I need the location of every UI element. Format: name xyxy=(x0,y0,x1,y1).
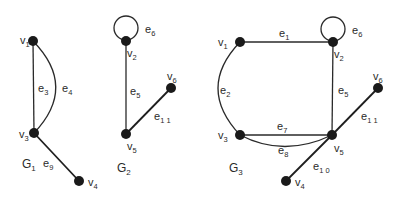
graph-1-edge-e3-label: e3 xyxy=(38,82,48,97)
graph-3-edge-e11-label: e1 1 xyxy=(361,110,378,125)
graph-3-edge-e5-label: e5 xyxy=(338,84,348,99)
graph-3-vertex-v2-label: v2 xyxy=(334,48,344,63)
graph-3-vertex-v1-label: v1 xyxy=(218,36,228,51)
graph-3-edge-e2-label: e2 xyxy=(220,84,230,99)
graph-1-vertex-v3 xyxy=(29,128,39,138)
graph-2-edge-e11-label: e1 1 xyxy=(154,110,171,125)
graph-1-vertex-v4-label: v4 xyxy=(88,176,98,191)
graph-1-vertex-v1-label: v1 xyxy=(20,34,30,49)
nodes-layer xyxy=(28,36,383,186)
graph-3-edge-e7-label: e7 xyxy=(277,120,287,135)
graph-2-vertex-v6-label: v6 xyxy=(167,70,177,85)
graph-1-edge-e9-label: e9 xyxy=(43,157,53,172)
graph-3-vertex-v6-label: v6 xyxy=(373,70,383,85)
graph-3-vertex-v2 xyxy=(328,37,338,47)
graph-2-edge-e6-label: e6 xyxy=(145,23,155,38)
graph-3-edge-e6-label: e6 xyxy=(352,24,362,39)
graph-1-vertex-v4 xyxy=(74,176,84,186)
graph-3-vertex-v1 xyxy=(235,37,245,47)
graph-2-vertex-v2-label: v2 xyxy=(127,47,137,62)
graph-2-vertex-v2 xyxy=(121,36,131,46)
graph-1-title: G1 xyxy=(22,157,36,173)
labels-layer: e3e4e9v1v3v4G1e6e5e1 1v2v6v5G2e1e6e2e5e7… xyxy=(19,23,383,191)
graph-2-edge-e5-label: e5 xyxy=(130,85,140,100)
graph-3-vertex-v5-label: v5 xyxy=(334,142,344,157)
graph-3-edge-e5 xyxy=(332,42,333,135)
graph-1-vertex-v3-label: v3 xyxy=(19,128,29,143)
graph-2-vertex-v5-label: v5 xyxy=(127,140,137,155)
graph-3-vertex-v3-label: v3 xyxy=(218,129,228,144)
graph-3-vertex-v4-label: v4 xyxy=(295,176,305,191)
graph-3-title: G3 xyxy=(229,161,243,177)
graph-1-edge-e4-label: e4 xyxy=(62,82,72,97)
edges-layer xyxy=(33,16,378,181)
graph-2-vertex-v5 xyxy=(121,129,131,139)
graph-1-edge-e3 xyxy=(33,41,34,133)
graph-3-vertex-v5 xyxy=(327,130,337,140)
graph-2-title: G2 xyxy=(117,161,131,177)
graph-3-vertex-v4 xyxy=(281,176,291,186)
graph-diagram-canvas: e3e4e9v1v3v4G1e6e5e1 1v2v6v5G2e1e6e2e5e7… xyxy=(0,0,403,202)
graph-3-edge-e8 xyxy=(240,135,332,147)
graph-3-edge-e1-label: e1 xyxy=(279,27,289,42)
graph-1-edge-e9 xyxy=(34,133,79,181)
graph-1-edge-e4 xyxy=(33,41,56,133)
graph-3-vertex-v3 xyxy=(235,130,245,140)
graph-3-edge-e10-label: e1 0 xyxy=(313,160,330,175)
